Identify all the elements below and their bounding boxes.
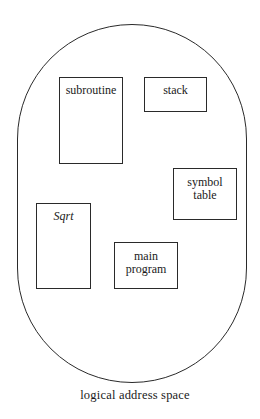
- segment-label-line: program: [115, 263, 177, 276]
- segment-sqrt: Sqrt: [36, 203, 91, 289]
- segment-label: subroutine: [66, 83, 117, 97]
- diagram-caption: logical address space: [0, 388, 260, 403]
- segment-symbol-table: symbol table: [173, 168, 237, 220]
- segment-label: Sqrt: [53, 209, 73, 223]
- segment-label-line: table: [174, 189, 236, 202]
- segment-subroutine: subroutine: [59, 77, 123, 164]
- segment-main-program: main program: [114, 242, 178, 289]
- segment-stack: stack: [144, 77, 207, 112]
- segment-label: stack: [163, 83, 188, 97]
